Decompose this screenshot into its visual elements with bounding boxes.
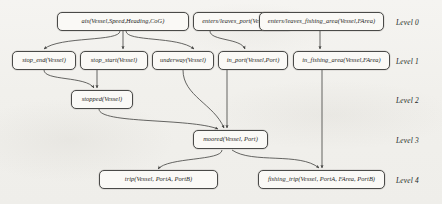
edge-stop-end-stopped [44,70,94,88]
node-stopped-label: stopped(Vessel) [82,96,123,102]
edge-ais-stop-end [44,31,120,49]
edge-enters-port-in-port [210,31,245,49]
node-in-port-label: in_port(Vessel,Port) [227,57,280,63]
node-moored[interactable]: moored(Vessel, Port) [193,130,268,149]
node-ais-label: ais(Vessel,Speed,Heading,CoG) [82,18,165,24]
level-label-4: Level 4 [396,176,419,185]
node-enters-leaves-fishing-area-label: enters/leaves_fishing_area(Vessel,FArea) [268,18,375,24]
node-in-port[interactable]: in_port(Vessel,Port) [218,51,288,70]
node-moored-label: moored(Vessel, Port) [203,136,258,142]
edge-moored-fishing-trip [232,150,319,168]
node-fishing-trip[interactable]: fishing_trip(Vessel, PortA, FArea, PortB… [258,170,385,189]
node-fishing-trip-label: fishing_trip(Vessel, PortA, FArea, PortB… [268,176,375,182]
node-stop-end-label: stop_end(Vessel) [22,57,66,63]
node-trip[interactable]: trip(Vessel, PortA, PortB) [99,170,218,189]
node-stopped[interactable]: stopped(Vessel) [71,90,133,109]
node-underway-label: underway(Vessel) [160,57,206,63]
node-stop-start-label: stop_start(Vessel) [91,57,137,63]
node-trip-label: trip(Vessel, PortA, PortB) [125,176,192,182]
node-stop-end[interactable]: stop_end(Vessel) [12,51,76,70]
node-stop-start[interactable]: stop_start(Vessel) [80,51,148,70]
level-label-0: Level 0 [396,18,419,27]
level-label-2: Level 2 [396,96,419,105]
node-enters-leaves-fishing-area[interactable]: enters/leaves_fishing_area(Vessel,FArea) [259,12,384,31]
node-ais[interactable]: ais(Vessel,Speed,Heading,CoG) [57,12,189,31]
level-label-3: Level 3 [396,136,419,145]
event-hierarchy-diagram: ais(Vessel,Speed,Heading,CoG) enters/lea… [0,0,442,204]
node-in-fishing-area[interactable]: in_fishing_area(Vessel,FArea) [293,51,390,70]
node-underway[interactable]: underway(Vessel) [152,51,214,70]
level-label-1: Level 1 [396,57,419,66]
edge-underway-moored [183,70,224,128]
node-in-fishing-area-label: in_fishing_area(Vessel,FArea) [302,57,380,63]
edge-moored-trip [158,150,222,169]
edge-ais-underway [126,31,194,49]
edge-stopped-moored [99,109,218,129]
